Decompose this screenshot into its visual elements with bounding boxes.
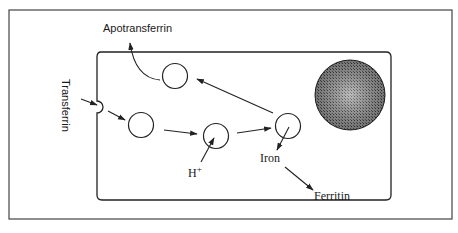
arrow-transferrin-to-pit (81, 99, 97, 105)
label-transferrin: Transferrin (60, 79, 72, 132)
figure-frame (9, 10, 452, 219)
arrow-iron-to-ferritin (285, 167, 313, 190)
arrow-acidified-to-release (237, 128, 271, 133)
label-ferritin: Ferritin (314, 189, 350, 203)
arrow-pit-to-endosome (108, 111, 125, 120)
label-iron: Iron (260, 151, 280, 165)
label-apotransferrin: Apotransferrin (103, 22, 172, 34)
arrow-endosome-to-acidified (164, 130, 197, 134)
label-proton: H+ (188, 164, 202, 180)
endosome-acidified (204, 124, 229, 149)
arrow-recycling-to-apotransferrin (130, 43, 160, 80)
arrow-release-to-recycling (197, 79, 273, 113)
recycling-vesicle (163, 64, 188, 89)
endosome-early (129, 113, 154, 138)
transferrin-cycle-diagram: Apotransferrin Transferrin H+ Iron Ferri… (0, 0, 458, 233)
endosome-iron-release (276, 114, 301, 139)
